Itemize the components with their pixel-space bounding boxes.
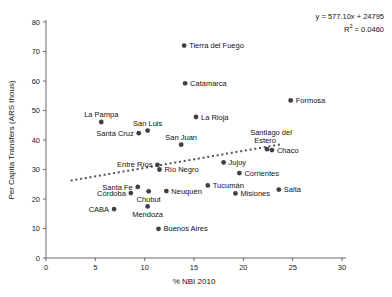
data-point — [128, 191, 133, 196]
data-point-label: Neuquén — [171, 187, 201, 196]
trendline-dot — [188, 159, 190, 161]
trendline-dot — [250, 149, 252, 151]
data-point — [145, 204, 150, 209]
x-tick-label: 5 — [93, 263, 97, 272]
trendline-dot — [89, 176, 91, 178]
data-point — [205, 183, 210, 188]
data-point-label: La Rioja — [201, 113, 229, 122]
data-point-label: Santa Cruz — [96, 129, 134, 138]
y-tick-label: 40 — [32, 136, 40, 145]
y-tick-label: 10 — [32, 224, 40, 233]
trendline-dot — [259, 147, 261, 149]
trendline-dot — [108, 173, 110, 175]
data-point-label: Chubut — [137, 195, 162, 204]
data-point-label: Chaco — [277, 146, 299, 155]
trendline-dot — [122, 170, 124, 172]
data-point-label: San Juan — [165, 133, 197, 142]
trendline-dot — [104, 174, 106, 176]
x-tick-label: 0 — [44, 263, 48, 272]
x-tick-label: 15 — [190, 263, 198, 272]
data-point — [156, 226, 161, 231]
data-point-label: Estero — [254, 136, 276, 145]
plot-area: 01020304050607080051015202530% NBI 2010P… — [0, 0, 392, 297]
data-point-label: Río Negro — [164, 165, 198, 174]
data-point-label: CABA — [89, 205, 109, 214]
trendline-dot — [221, 153, 223, 155]
trendline-dot — [217, 154, 219, 156]
data-point-label: Formosa — [296, 96, 326, 105]
trendline-dot — [160, 164, 162, 166]
data-point-label: Entre Ríos — [117, 160, 153, 169]
trendline-dot — [212, 155, 214, 157]
y-axis-title: Per Capita Transfers (ARS thous) — [7, 80, 16, 199]
data-point — [221, 160, 226, 165]
y-tick-label: 50 — [32, 106, 40, 115]
data-point — [112, 207, 117, 212]
y-tick-label: 0 — [36, 254, 40, 263]
scatter-chart: y = 577.10x + 24795 R2 = 0.0460 01020304… — [0, 0, 392, 297]
y-tick-label: 20 — [32, 195, 40, 204]
y-tick-label: 60 — [32, 77, 40, 86]
data-point-label: Tucumán — [213, 181, 244, 190]
trendline-dot — [127, 170, 129, 172]
trendline-dot — [268, 145, 270, 147]
data-point — [155, 162, 160, 167]
x-tick-label: 20 — [239, 263, 247, 272]
data-point-label: Buenos Aires — [163, 224, 207, 233]
data-point-label: Tierra del Fuego — [189, 41, 244, 50]
y-tick-label: 30 — [32, 165, 40, 174]
data-point — [182, 43, 187, 48]
y-tick-label: 70 — [32, 47, 40, 56]
data-point — [164, 189, 169, 194]
trendline-dot — [240, 150, 242, 152]
x-tick-label: 30 — [338, 263, 346, 272]
trendline-dot — [179, 161, 181, 163]
data-point — [276, 187, 281, 192]
trendline-dot — [80, 178, 82, 180]
data-point — [145, 128, 150, 133]
data-point-label: Misiones — [240, 189, 270, 198]
x-tick-label: 10 — [140, 263, 148, 272]
trendline-dot — [174, 162, 176, 164]
trendline-dot — [254, 148, 256, 150]
trendline-dot — [99, 175, 101, 177]
trendline-dot — [75, 179, 77, 181]
data-point — [179, 142, 184, 147]
data-point — [288, 98, 293, 103]
data-point — [265, 147, 270, 152]
trendline-dot — [170, 162, 172, 164]
data-point — [237, 171, 242, 176]
data-point — [194, 115, 199, 120]
trendline-dot — [71, 179, 73, 181]
trendline-dot — [245, 149, 247, 151]
trendline-dot — [184, 160, 186, 162]
data-point-label: Mendoza — [132, 210, 164, 219]
trendline-dot — [226, 153, 228, 155]
data-point — [136, 131, 141, 136]
data-point-label: San Luis — [133, 119, 162, 128]
trendline-dot — [231, 152, 233, 154]
data-point-label: Catamarca — [190, 79, 228, 88]
data-point — [183, 81, 188, 86]
trendline-dot — [203, 157, 205, 159]
trendline-dot — [113, 172, 115, 174]
trendline-dot — [118, 171, 120, 173]
data-point-label: Jujuy — [229, 158, 247, 167]
data-point — [270, 148, 275, 153]
data-point — [157, 167, 162, 172]
data-point-label: Salta — [284, 185, 302, 194]
trendline-dot — [85, 177, 87, 179]
data-point-label: Córdoba — [97, 189, 127, 198]
data-point — [135, 185, 140, 190]
x-axis-title: % NBI 2010 — [173, 277, 216, 286]
trendline-dot — [207, 156, 209, 158]
data-point-label: Corrientes — [244, 169, 279, 178]
trendline-dot — [235, 151, 237, 153]
x-tick-label: 25 — [288, 263, 296, 272]
trendline-dot — [94, 175, 96, 177]
y-tick-label: 80 — [32, 18, 40, 27]
data-point — [233, 191, 238, 196]
data-point — [146, 189, 151, 194]
trendline-dot — [193, 158, 195, 160]
data-point-label: La Pampa — [84, 110, 119, 119]
